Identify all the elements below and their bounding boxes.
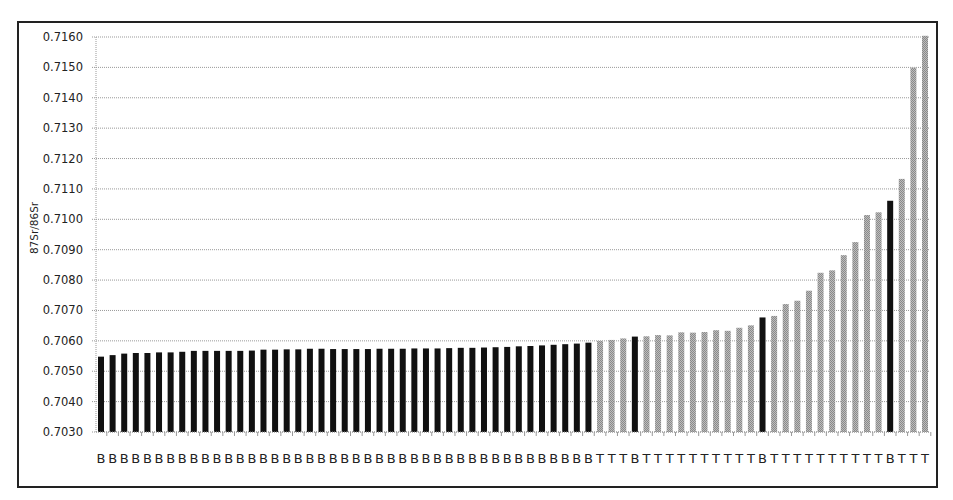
bar-b [377, 349, 383, 432]
x-category-label: B [886, 451, 895, 466]
y-tick-label: 0.7160 [43, 30, 83, 44]
y-tick-label: 0.7070 [43, 303, 83, 317]
bar-t [899, 179, 905, 432]
x-category-label: B [503, 451, 512, 466]
bar-b [179, 352, 185, 432]
bar-b [551, 345, 557, 432]
bar-b [562, 344, 568, 432]
x-category-label: B [456, 451, 465, 466]
y-axis-label: 87Sr/86Sr [28, 201, 40, 254]
bar-b [133, 353, 139, 432]
bar-b [202, 351, 208, 432]
bar-b [295, 349, 301, 432]
bar-t [748, 325, 754, 432]
x-category-label: B [131, 451, 140, 466]
y-tick-label: 0.7080 [43, 273, 83, 287]
x-category-label: B [468, 451, 477, 466]
x-category-label: T [850, 451, 859, 466]
bar-b [760, 317, 766, 432]
bar-b [156, 352, 162, 432]
x-category-label: B [514, 451, 523, 466]
bar-t [876, 212, 882, 432]
x-category-label: B [305, 451, 314, 466]
x-category-label: T [769, 451, 778, 466]
x-category-label: B [549, 451, 558, 466]
bar-b [504, 347, 510, 432]
x-category-label: T [862, 451, 871, 466]
bar-t [829, 270, 835, 432]
x-category-label: B [398, 451, 407, 466]
y-tick-label: 0.7110 [43, 182, 83, 196]
bar-b [319, 349, 325, 432]
bar-b [214, 351, 220, 432]
x-category-label: T [908, 451, 917, 466]
bar-b [539, 345, 545, 432]
bar-b [469, 348, 475, 432]
bar-t [864, 215, 870, 432]
x-category-label: B [213, 451, 222, 466]
bar-b [110, 355, 116, 432]
bar-b [272, 350, 278, 432]
x-category-label: T [688, 451, 697, 466]
x-category-label: T [781, 451, 790, 466]
x-category-label: B [329, 451, 338, 466]
bar-b [330, 349, 336, 432]
bar-t [713, 330, 719, 432]
bar-t [667, 335, 673, 432]
bar-t [678, 332, 684, 432]
x-category-label: B [155, 451, 164, 466]
x-category-label: T [595, 451, 604, 466]
x-category-label: B [259, 451, 268, 466]
x-category-label: B [201, 451, 210, 466]
bar-b [388, 349, 394, 432]
x-category-label: T [665, 451, 674, 466]
bar-b [144, 353, 150, 432]
x-category-label: B [108, 451, 117, 466]
bar-t [771, 316, 777, 432]
bar-b [516, 346, 522, 432]
x-category-label: B [189, 451, 198, 466]
x-category-label: B [758, 451, 767, 466]
bar-b [585, 343, 591, 432]
bar-t [783, 304, 789, 432]
x-category-label: B [375, 451, 384, 466]
bar-b [411, 348, 417, 432]
bar-b [121, 354, 127, 432]
x-category-label: T [618, 451, 627, 466]
x-category-label: B [491, 451, 500, 466]
x-category-label: B [363, 451, 372, 466]
x-category-label: B [317, 451, 326, 466]
x-category-label: T [746, 451, 755, 466]
bar-b [446, 348, 452, 432]
x-category-label: T [723, 451, 732, 466]
bar-t [643, 336, 649, 432]
x-category-label: T [897, 451, 906, 466]
bar-b [342, 349, 348, 432]
x-category-label: T [607, 451, 616, 466]
x-category-label: B [120, 451, 129, 466]
x-category-label: B [340, 451, 349, 466]
bar-b [574, 344, 580, 432]
bar-t [852, 242, 858, 432]
x-category-label: T [711, 451, 720, 466]
y-tick-label: 0.7130 [43, 121, 83, 135]
bar-t [806, 291, 812, 432]
x-category-label: B [178, 451, 187, 466]
bar-b [481, 348, 487, 432]
bar-t [910, 68, 916, 432]
y-tick-label: 0.7030 [43, 425, 83, 439]
x-category-label: T [874, 451, 883, 466]
x-category-label: B [282, 451, 291, 466]
bar-b [226, 351, 232, 432]
bar-b [365, 349, 371, 432]
x-category-label: B [166, 451, 175, 466]
y-tick-label: 0.7090 [43, 243, 83, 257]
bar-b [493, 347, 499, 432]
x-category-label: B [387, 451, 396, 466]
bar-b [527, 346, 533, 432]
x-category-label: B [480, 451, 489, 466]
bar-t [841, 255, 847, 432]
bar-b [400, 349, 406, 432]
x-category-label: T [816, 451, 825, 466]
x-category-label: B [561, 451, 570, 466]
